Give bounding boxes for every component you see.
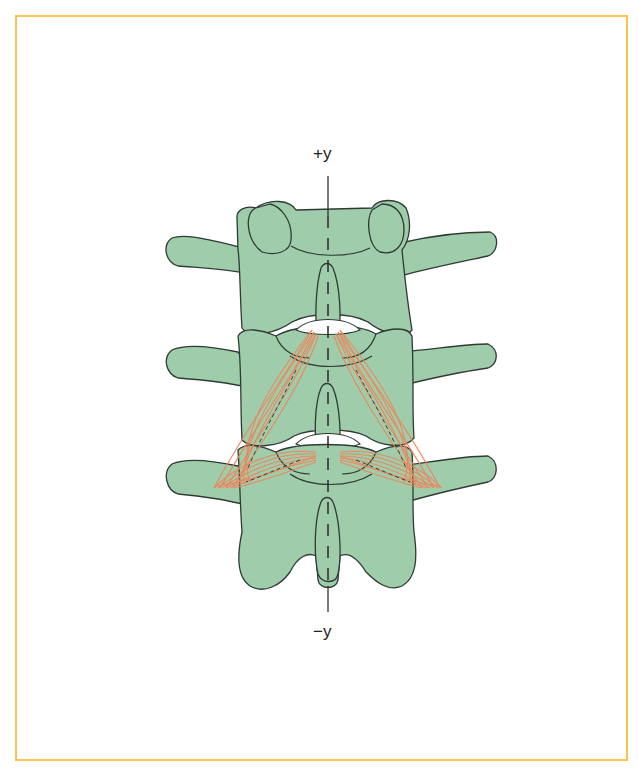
facet-right-upper [369, 204, 404, 253]
axis-label-negative-y: −y [313, 622, 331, 642]
vertebra-lower [166, 445, 496, 590]
transverse-process-right [400, 232, 497, 276]
vertebrae-diagram: .bone { fill: #9fcdac; stroke: #2f3a33; … [0, 0, 638, 769]
axis-label-positive-y: +y [313, 144, 331, 164]
transverse-process-right-mid [400, 344, 496, 386]
